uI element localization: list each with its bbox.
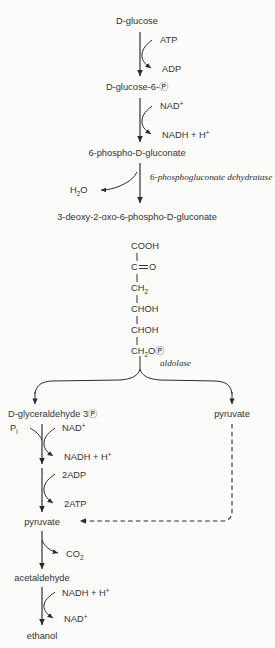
struct-line-c: C xyxy=(131,262,138,272)
cofactor-nadh-3: NADH + H+ xyxy=(62,587,110,598)
metabolite-pyruvate-right: pyruvate xyxy=(214,409,250,419)
metabolite-ethanol: ethanol xyxy=(27,631,58,641)
enzyme-aldolase: aldolase xyxy=(160,358,191,368)
metabolite-kdpg: 3-deoxy-2-oxo-6-phospho-D-gluconate xyxy=(57,212,217,222)
cofactor-adp: ADP xyxy=(162,64,181,74)
metabolite-d-glucose: D-glucose xyxy=(116,16,158,26)
entner-doudoroff-pathway-diagram: D-glucose ATP ADP D-glucose-6-Ⓟ NAD+ NAD… xyxy=(0,0,275,648)
struct-line-cooh: COOH xyxy=(131,241,159,251)
cofactor-nadh-2: NADH + H+ xyxy=(64,451,112,462)
struct-line-choh-2: CHOH xyxy=(131,325,158,335)
cofactor-2atp: 2ATP xyxy=(64,499,87,509)
metabolite-6-phospho-d-gluconate: 6-phospho-D-gluconate xyxy=(88,148,185,158)
struct-line-choh-1: CHOH xyxy=(131,304,158,314)
struct-line-ch2op: CH2OⓅ xyxy=(131,346,164,358)
cofactor-2adp: 2ADP xyxy=(62,470,86,480)
metabolite-acetaldehyde: acetaldehyde xyxy=(14,573,69,583)
metabolite-d-glucose-6-phosphate: D-glucose-6-Ⓟ xyxy=(106,82,168,92)
struct-c2-oxygen: O xyxy=(149,262,156,272)
cofactor-nadh-1: NADH + H+ xyxy=(162,129,210,140)
metabolite-g3p: D-glyceraldehyde 3Ⓟ xyxy=(8,409,97,419)
metabolite-pyruvate-left: pyruvate xyxy=(24,517,60,527)
enzyme-6-phosphogluconate-dehydratase: 6-phosphogluconate dehydratase xyxy=(150,172,272,182)
cofactor-atp: ATP xyxy=(160,35,177,45)
